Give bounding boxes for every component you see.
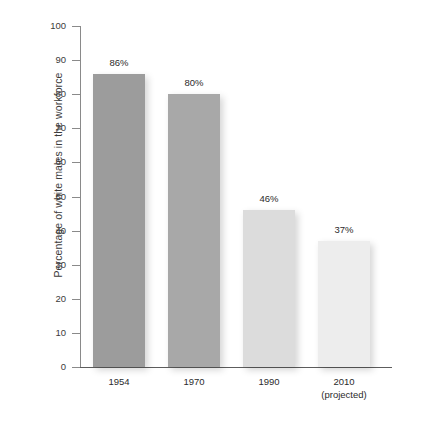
x-category-sublabel-text: (projected) bbox=[304, 388, 384, 401]
y-tick-label-text: 60 bbox=[42, 157, 66, 167]
y-tick-mark bbox=[72, 299, 80, 300]
y-tick-mark bbox=[72, 128, 80, 129]
y-tick-label-text: 20 bbox=[42, 294, 66, 304]
y-tick-label-text: 70 bbox=[42, 123, 66, 133]
x-category-label: 1970 bbox=[154, 375, 234, 388]
y-tick-label: 50 bbox=[38, 192, 66, 202]
y-axis-line bbox=[80, 26, 81, 368]
y-tick-label: 100 bbox=[38, 21, 66, 31]
x-category-label: 1990 bbox=[229, 375, 309, 388]
y-tick-label-text: 10 bbox=[42, 328, 66, 338]
y-tick-mark bbox=[72, 197, 80, 198]
y-tick-mark bbox=[72, 94, 80, 95]
y-tick-label-text: 40 bbox=[42, 226, 66, 236]
bar bbox=[168, 94, 220, 367]
bar-value-label: 86% bbox=[93, 57, 145, 68]
y-tick-mark bbox=[72, 60, 80, 61]
y-tick-label-text: 30 bbox=[42, 260, 66, 270]
bar-chart: Percentage of white males in the workfor… bbox=[0, 0, 421, 425]
y-tick-label: 0 bbox=[38, 362, 66, 372]
y-tick-label-text: 90 bbox=[42, 55, 66, 65]
bar bbox=[243, 210, 295, 367]
plot-area: 1009080706050403020100 86%80%46%37% 1954… bbox=[0, 0, 421, 425]
x-category-label-text: 1990 bbox=[258, 376, 279, 387]
y-tick-label-text: 50 bbox=[42, 192, 66, 202]
y-tick-label: 70 bbox=[38, 123, 66, 133]
bar bbox=[318, 241, 370, 367]
y-tick-mark bbox=[72, 162, 80, 163]
x-category-label-text: 2010 bbox=[333, 376, 354, 387]
x-category-label: 2010(projected) bbox=[304, 375, 384, 401]
y-tick-label: 30 bbox=[38, 260, 66, 270]
y-tick-label: 80 bbox=[38, 89, 66, 99]
y-tick-mark bbox=[72, 333, 80, 334]
bar-value-label: 80% bbox=[168, 77, 220, 88]
bar bbox=[93, 74, 145, 367]
y-tick-label: 90 bbox=[38, 55, 66, 65]
bar-value-label: 46% bbox=[243, 193, 295, 204]
x-category-label-text: 1970 bbox=[183, 376, 204, 387]
x-category-label: 1954 bbox=[79, 375, 159, 388]
x-category-label-text: 1954 bbox=[108, 376, 129, 387]
x-axis-line bbox=[80, 367, 392, 368]
y-tick-label: 60 bbox=[38, 157, 66, 167]
bar-value-label: 37% bbox=[318, 224, 370, 235]
y-tick-mark bbox=[72, 231, 80, 232]
y-tick-label: 10 bbox=[38, 328, 66, 338]
y-tick-label-text: 80 bbox=[42, 89, 66, 99]
y-tick-label: 40 bbox=[38, 226, 66, 236]
y-tick-mark bbox=[72, 26, 80, 27]
y-tick-mark bbox=[72, 367, 80, 368]
y-tick-label-text: 100 bbox=[42, 21, 66, 31]
y-tick-mark bbox=[72, 265, 80, 266]
y-tick-label-text: 0 bbox=[42, 362, 66, 372]
y-tick-label: 20 bbox=[38, 294, 66, 304]
